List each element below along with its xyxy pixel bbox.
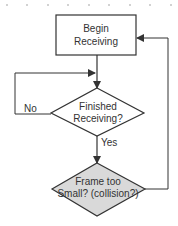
yes-label: Yes <box>101 137 117 148</box>
begin-receiving-node[interactable]: Begin Receiving <box>56 15 136 55</box>
finished-line2: Receiving? <box>73 113 123 124</box>
no-label: No <box>24 103 37 114</box>
finished-line1: Finished <box>79 101 117 112</box>
begin-line1: Begin <box>83 23 109 34</box>
flowchart-canvas: Begin Receiving No Finished Receiving? Y… <box>0 0 178 226</box>
frame-line1: Frame too <box>75 176 121 187</box>
finished-receiving-node[interactable]: Finished Receiving? <box>51 88 144 136</box>
frame-too-small-node[interactable]: Frame too Small? (collision?) <box>52 163 145 216</box>
frame-line2: Small? (collision?) <box>57 188 138 199</box>
begin-line2: Receiving <box>74 36 118 47</box>
grid-dots <box>6 4 172 6</box>
